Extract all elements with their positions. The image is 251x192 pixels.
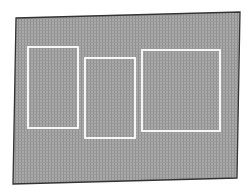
sketch-diagram [0,0,251,192]
gray-sheet [13,12,240,184]
